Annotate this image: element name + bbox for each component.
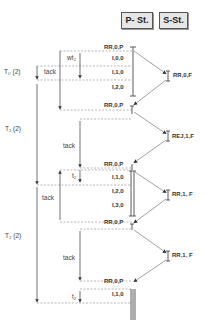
frame-label: RR,0,P [104, 161, 123, 167]
frame-label: I,1,0 [112, 291, 124, 297]
frame-label: RR,0,P [104, 44, 123, 50]
timing-label-t0: T₀ (2) [4, 68, 20, 75]
timing-label-t2: t₂ [72, 293, 76, 300]
secondary-timeline [166, 71, 170, 261]
timing-label-tack: tack [44, 68, 56, 75]
timing-label-t1: T₁ (2) [5, 125, 21, 132]
frame-label: I,1,0 [112, 69, 124, 75]
timing-label-T2: T₂ (2) [5, 232, 21, 239]
secondary-frame-label: RR,1, F [172, 191, 193, 197]
timing-label-tack: tack [63, 142, 75, 149]
secondary-frame-label: REJ,1,F [172, 133, 194, 139]
message-arrows [134, 51, 166, 281]
sequence-diagram-lines [0, 0, 205, 334]
timing-label-t2: t₂ [72, 172, 76, 179]
frame-label: RR,0,P [104, 102, 123, 108]
secondary-frame-label: RR,0,F [173, 72, 192, 78]
frame-label: I,3,0 [112, 202, 124, 208]
frame-label: RR,0,P [104, 219, 123, 225]
timing-label-tack: tack [63, 254, 75, 261]
timing-label-wt2: wt₂ [67, 54, 76, 61]
secondary-frame-label: RR,1, F [172, 252, 193, 258]
frame-label: RR,0,P [104, 278, 123, 284]
primary-timeline [129, 47, 136, 320]
frame-label: I,2,0 [112, 188, 124, 194]
frame-label: I,1,0 [112, 174, 124, 180]
frame-label: I,2,0 [112, 84, 124, 90]
frame-label: I,0,0 [112, 55, 124, 61]
timing-label-tack: tack [42, 194, 54, 201]
